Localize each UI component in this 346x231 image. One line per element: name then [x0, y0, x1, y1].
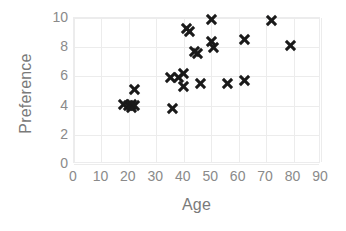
x-tick-label: 80	[285, 168, 301, 184]
y-tick-label: 4	[60, 97, 68, 113]
x-axis-title: Age	[73, 196, 320, 214]
x-tick-label: 90	[312, 168, 328, 184]
gridline-horizontal	[74, 47, 319, 48]
data-point-marker	[125, 101, 138, 114]
y-axis-tick-labels: 0246810	[36, 17, 68, 163]
gridline-horizontal	[74, 106, 319, 107]
x-tick-label: 70	[257, 168, 273, 184]
y-tick-label: 2	[60, 126, 68, 142]
x-tick-label: 10	[93, 168, 109, 184]
x-tick-label: 0	[69, 168, 77, 184]
gridline-vertical	[129, 18, 130, 162]
y-tick-label: 0	[60, 155, 68, 171]
data-point-marker	[284, 39, 297, 52]
plot-area	[73, 17, 320, 163]
gridline-vertical	[156, 18, 157, 162]
x-axis-tick-labels: 0102030405060708090	[73, 168, 320, 188]
data-point-marker	[125, 98, 138, 111]
gridline-vertical	[74, 18, 75, 162]
gridline-vertical	[184, 18, 185, 162]
scatter-chart: Preference 0246810 0102030405060708090 A…	[0, 0, 346, 231]
y-tick-label: 10	[52, 9, 68, 25]
x-tick-label: 30	[148, 168, 164, 184]
gridline-horizontal	[74, 164, 319, 165]
gridline-vertical	[266, 18, 267, 162]
gridline-vertical	[211, 18, 212, 162]
gridline-horizontal	[74, 76, 319, 77]
data-point-marker	[180, 22, 193, 35]
x-tick-label: 40	[175, 168, 191, 184]
data-point-marker	[221, 77, 234, 90]
data-point-marker	[164, 71, 177, 84]
data-point-marker	[194, 77, 207, 90]
gridline-horizontal	[74, 18, 319, 19]
data-point-marker	[166, 102, 179, 115]
gridline-vertical	[239, 18, 240, 162]
y-tick-label: 8	[60, 38, 68, 54]
gridline-vertical	[321, 18, 322, 162]
x-tick-label: 20	[120, 168, 136, 184]
gridline-vertical	[294, 18, 295, 162]
gridline-vertical	[101, 18, 102, 162]
gridline-horizontal	[74, 135, 319, 136]
data-point-marker	[191, 47, 204, 60]
x-tick-label: 60	[230, 168, 246, 184]
y-tick-label: 6	[60, 67, 68, 83]
x-tick-label: 50	[202, 168, 218, 184]
